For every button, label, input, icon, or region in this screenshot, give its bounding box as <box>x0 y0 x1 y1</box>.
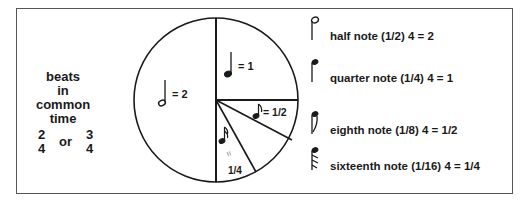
sixteenth-note-icon <box>308 146 322 172</box>
legend-text: half note (1/2) 4 = 2 <box>330 30 434 42</box>
note-value-pie-chart: = 2 = 1 = 1/2 = 1/4 <box>0 0 531 204</box>
legend-text: eighth note (1/8) 4 = 1/2 <box>330 124 458 136</box>
half-note-icon <box>308 16 322 42</box>
quarter-note-icon <box>224 52 233 78</box>
slice-label-quarter: = 1 <box>238 60 254 72</box>
sixteenth-note-icon <box>218 127 227 144</box>
quarter-note-icon <box>308 58 322 84</box>
legend-item-sixteenth: sixteenth note (1/16) 4 = 1/4 <box>308 146 480 172</box>
eighth-note-icon <box>308 110 322 136</box>
legend-item-half: half note (1/2) 4 = 2 <box>308 16 434 42</box>
legend-item-eighth: eighth note (1/8) 4 = 1/2 <box>308 110 458 136</box>
half-note-icon <box>158 80 167 107</box>
slice-label-sixteenth-value: 1/4 <box>228 165 242 176</box>
eighth-note-icon <box>252 104 261 119</box>
legend-item-quarter: quarter note (1/4) 4 = 1 <box>308 58 453 84</box>
slice-label-half: = 2 <box>172 88 188 100</box>
slice-label-sixteenth-eq: = <box>223 149 234 157</box>
legend-text: quarter note (1/4) 4 = 1 <box>330 72 453 84</box>
slice-label-eighth: = 1/2 <box>263 106 287 118</box>
legend-text: sixteenth note (1/16) 4 = 1/4 <box>330 160 480 172</box>
